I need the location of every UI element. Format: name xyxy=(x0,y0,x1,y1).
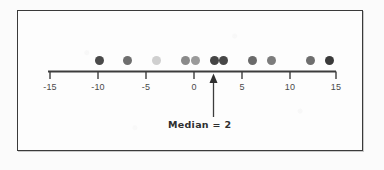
data-point xyxy=(306,56,315,65)
dot-plot-figure: -15 -10 -5 0 5 10 15 Median = 2 xyxy=(0,0,384,170)
median-annotation-label: Median = 2 xyxy=(168,119,231,130)
data-point xyxy=(181,56,190,65)
tick-label-5: 5 xyxy=(225,82,259,92)
tick-label-neg5: -5 xyxy=(129,82,163,92)
tick-label-neg15: -15 xyxy=(33,82,67,92)
data-point xyxy=(325,56,334,65)
tick-label-15: 15 xyxy=(319,82,353,92)
data-point xyxy=(210,56,219,65)
tick-label-10: 10 xyxy=(273,82,307,92)
data-point xyxy=(191,56,200,65)
data-point xyxy=(95,56,104,65)
tick-label-0: 0 xyxy=(177,82,211,92)
tick-label-neg10: -10 xyxy=(81,82,115,92)
